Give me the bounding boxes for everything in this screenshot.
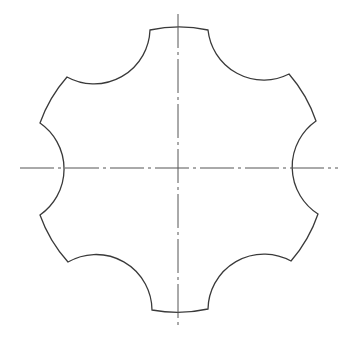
drawing-canvas <box>0 0 356 337</box>
part-drawing <box>0 0 356 337</box>
